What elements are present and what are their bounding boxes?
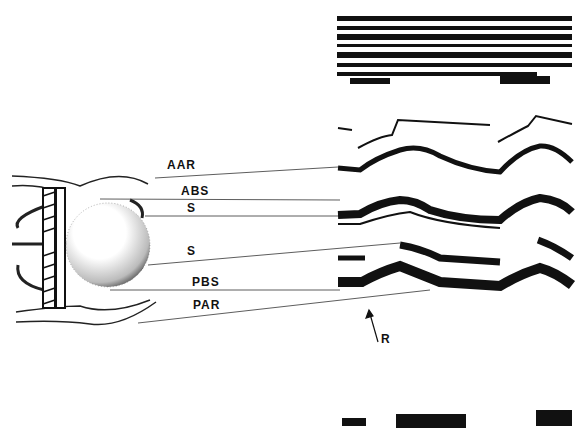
- label-aar: AAR: [167, 158, 196, 172]
- mmode-echo-panel: [337, 16, 572, 428]
- label-s-lower: S: [187, 244, 196, 258]
- diagram-canvas: [0, 0, 587, 443]
- label-r: R: [381, 332, 391, 346]
- label-pbs: PBS: [192, 275, 220, 289]
- label-par: PAR: [193, 298, 220, 312]
- sewing-ring: [43, 188, 65, 308]
- label-s-upper: S: [187, 201, 196, 215]
- ball-occluder: [66, 203, 150, 287]
- label-abs: ABS: [181, 184, 209, 198]
- r-arrow: [366, 310, 378, 342]
